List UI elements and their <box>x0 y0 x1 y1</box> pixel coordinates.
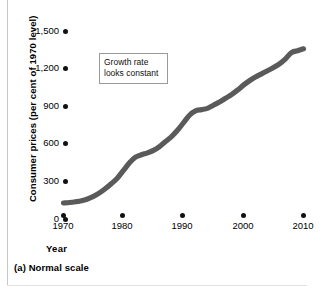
x-tick-label: 2000 <box>221 221 265 231</box>
x-tick-label: 1990 <box>160 221 204 231</box>
x-axis-title: Year <box>46 243 67 254</box>
tick-dot-icon <box>120 213 125 218</box>
x-tick-2000: 2000 <box>221 213 265 231</box>
figure-panel-normal-scale: Consumer prices (per cent of 1970 level)… <box>0 0 329 291</box>
x-tick-1990: 1990 <box>160 213 204 231</box>
tick-dot-icon <box>301 213 306 218</box>
x-tick-label: 1980 <box>100 221 144 231</box>
x-tick-1970: 1970 <box>41 213 85 231</box>
x-tick-1980: 1980 <box>100 213 144 231</box>
x-tick-label: 1970 <box>41 221 85 231</box>
annotation-callout: Growth rate looks constant <box>99 53 168 84</box>
x-tick-2010: 2010 <box>281 213 325 231</box>
tick-dot-icon <box>241 213 246 218</box>
annotation-line-2: looks constant <box>104 68 163 79</box>
tick-dot-icon <box>61 213 66 218</box>
tick-dot-icon <box>180 213 185 218</box>
x-tick-label: 2010 <box>281 221 325 231</box>
figure-caption: (a) Normal scale <box>14 262 89 273</box>
annotation-line-1: Growth rate <box>104 57 163 68</box>
